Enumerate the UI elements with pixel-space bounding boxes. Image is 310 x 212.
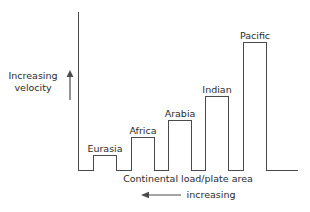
y-axis-label: Increasing velocity: [4, 70, 62, 93]
bar-label-africa: Africa: [118, 125, 168, 136]
x-axis-direction-note: increasing: [78, 189, 298, 201]
bar-chart: Increasing velocity Eurasia Africa Arabi…: [0, 0, 310, 212]
bar-label-arabia: Arabia: [155, 108, 205, 119]
bar-label-eurasia: Eurasia: [80, 143, 130, 154]
up-arrow-icon: [64, 70, 76, 100]
x-axis-direction-label: increasing: [187, 189, 236, 201]
bar-africa: [131, 137, 155, 171]
x-axis-label: Continental load/plate area: [78, 173, 298, 185]
left-arrow-icon: [141, 190, 181, 200]
bar-indian: [205, 96, 229, 171]
bar-label-indian: Indian: [192, 84, 242, 95]
y-axis-line: [78, 12, 79, 171]
bar-label-pacific: Pacific: [230, 30, 280, 41]
bar-arabia: [168, 120, 192, 171]
bar-eurasia: [93, 155, 117, 171]
bar-pacific: [243, 42, 267, 171]
